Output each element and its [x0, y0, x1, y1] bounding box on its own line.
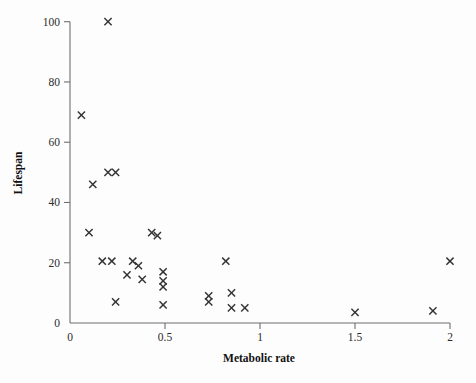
x-tick-label: 2: [447, 331, 453, 343]
data-point-marker: [429, 307, 436, 314]
axis-ticks: [64, 22, 450, 329]
y-tick-label: 0: [54, 317, 60, 329]
data-point-marker: [129, 258, 136, 265]
data-point-marker: [112, 169, 119, 176]
data-point-marker: [104, 18, 111, 25]
axis-tick-labels: 02040608010000.511.52: [43, 16, 453, 343]
data-point-marker: [446, 258, 453, 265]
x-tick-label: 1.5: [348, 331, 363, 343]
data-point-marker: [228, 289, 235, 296]
x-tick-label: 0.5: [158, 331, 173, 343]
data-point-marker: [205, 298, 212, 305]
data-point-marker: [85, 229, 92, 236]
data-point-marker: [351, 309, 358, 316]
data-point-marker: [135, 262, 142, 269]
data-point-marker: [104, 169, 111, 176]
y-tick-label: 60: [49, 136, 61, 148]
data-point-marker: [78, 112, 85, 119]
x-tick-label: 1: [257, 331, 263, 343]
data-point-marker: [222, 258, 229, 265]
data-point-marker: [228, 304, 235, 311]
data-point-marker: [112, 298, 119, 305]
data-point-marker: [139, 276, 146, 283]
data-point-marker: [89, 181, 96, 188]
data-point-marker: [123, 271, 130, 278]
data-point-marker: [160, 268, 167, 275]
scatter-plot-figure: 02040608010000.511.52 Metabolic rate Lif…: [0, 0, 476, 383]
plot-canvas: 02040608010000.511.52 Metabolic rate Lif…: [0, 0, 476, 383]
y-tick-label: 20: [49, 257, 61, 269]
data-point-marker: [108, 258, 115, 265]
data-points: [78, 18, 454, 316]
data-point-marker: [160, 301, 167, 308]
data-point-marker: [160, 283, 167, 290]
y-tick-label: 80: [49, 76, 61, 88]
y-tick-label: 40: [49, 196, 61, 208]
x-tick-label: 0: [67, 331, 73, 343]
data-point-marker: [99, 258, 106, 265]
data-point-marker: [241, 304, 248, 311]
y-tick-label: 100: [43, 16, 61, 28]
y-axis-title: Lifespan: [12, 151, 25, 194]
x-axis-title: Metabolic rate: [223, 352, 295, 364]
